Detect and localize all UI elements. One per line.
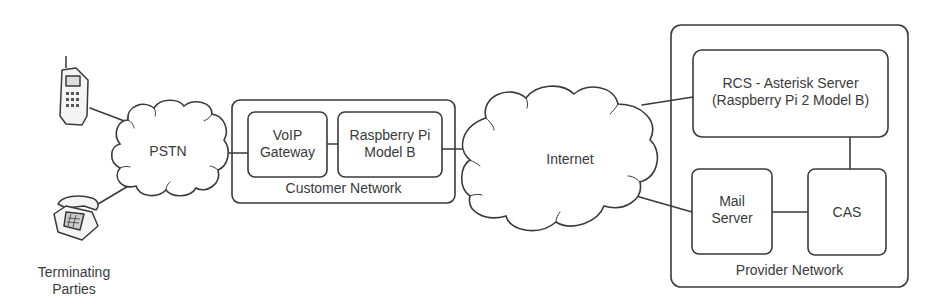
provider-network-label: Provider Network — [671, 262, 908, 279]
mail-server-label: Mail Server — [692, 193, 772, 227]
terminating-parties-line2: Parties — [20, 281, 128, 298]
customer-network-label: Customer Network — [232, 180, 455, 197]
terminating-parties-label: Terminating Parties — [20, 264, 128, 298]
mail-server-line1: Mail — [692, 193, 772, 210]
pstn-label: PSTN — [138, 143, 198, 160]
voip-gateway-line2: Gateway — [248, 144, 327, 161]
rcs-server-label: RCS - Asterisk Server (Raspberry Pi 2 Mo… — [693, 75, 888, 109]
edge-internet-mail — [636, 196, 692, 212]
internet-label: Internet — [520, 151, 620, 168]
mobile-phone-icon — [60, 56, 88, 125]
voip-gateway-label: VoIP Gateway — [248, 127, 327, 161]
edge-mobile-pstn — [90, 108, 127, 122]
rcs-server-line1: RCS - Asterisk Server — [693, 75, 888, 92]
raspberry-pi-line1: Raspberry Pi — [338, 127, 442, 144]
raspberry-pi-label: Raspberry Pi Model B — [338, 127, 442, 161]
desk-phone-icon — [54, 196, 98, 240]
cas-label: CAS — [808, 204, 886, 221]
raspberry-pi-line2: Model B — [338, 144, 442, 161]
terminating-parties-line1: Terminating — [20, 264, 128, 281]
rcs-server-line2: (Raspberry Pi 2 Model B) — [693, 92, 888, 109]
mail-server-line2: Server — [692, 210, 772, 227]
voip-gateway-line1: VoIP — [248, 127, 327, 144]
edge-internet-rcs — [642, 97, 693, 105]
